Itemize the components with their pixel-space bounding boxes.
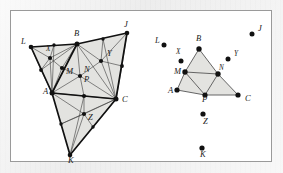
vertex-X [48, 56, 52, 60]
vertex-N [78, 74, 82, 78]
label-right-Z: Z [203, 116, 208, 126]
vertex-A [50, 91, 55, 96]
vertex-LA-mid [39, 68, 43, 72]
label-left-J: J [124, 19, 129, 29]
label-right-C: C [245, 93, 251, 103]
label-right-P: P [201, 94, 207, 104]
geometry-figure: L B J A C K X M N P Y Z [0, 0, 283, 173]
vertex-LB-mid [52, 43, 55, 46]
vertex-J [125, 31, 130, 36]
label-left-P: P [83, 74, 89, 84]
point-r-B [196, 46, 201, 51]
label-right-X: X [175, 48, 181, 56]
label-left-K: K [67, 155, 75, 165]
vertex-AK-mid [59, 122, 62, 125]
point-r-J [250, 32, 255, 37]
label-right-M: M [173, 66, 182, 76]
point-r-X [179, 59, 184, 64]
vertex-B [75, 42, 80, 47]
label-right-J: J [258, 23, 263, 33]
vertex-BJ-mid [101, 37, 104, 40]
vertex-M [60, 66, 64, 70]
point-r-N [215, 71, 220, 76]
figure-root: L B J A C K X M N P Y Z [0, 0, 283, 173]
vertex-Z [82, 112, 86, 116]
label-left-M: M [65, 66, 74, 76]
vertex-C [114, 97, 119, 102]
label-right-K: K [199, 149, 207, 159]
right-diagram: L B J X Y M N A P C Z K [154, 23, 263, 159]
label-left-C: C [122, 94, 128, 104]
label-left-Z: Z [88, 112, 93, 122]
label-left-A: A [42, 86, 49, 96]
label-right-Y: Y [234, 50, 239, 58]
label-left-L: L [20, 36, 26, 46]
left-diagram: L B J A C K X M N P Y Z [20, 19, 129, 165]
label-right-L: L [154, 35, 160, 45]
label-left-B: B [74, 28, 79, 38]
point-r-Y [226, 57, 231, 62]
point-r-C [235, 92, 240, 97]
vertex-AC-mid [82, 94, 86, 98]
vertex-KC-mid [91, 125, 94, 128]
label-left-X: X [45, 45, 51, 53]
point-r-L [162, 43, 167, 48]
point-r-M [182, 69, 187, 74]
vertex-L [29, 45, 34, 50]
vertex-Y [99, 59, 103, 63]
label-right-B: B [196, 33, 201, 43]
label-right-A: A [167, 85, 174, 95]
point-r-A [174, 87, 179, 92]
vertex-JC-mid [120, 64, 124, 68]
label-right-N: N [218, 64, 225, 72]
